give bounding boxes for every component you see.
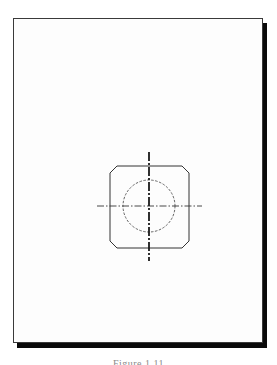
technical-drawing	[0, 0, 277, 365]
figure-caption: Figure 1.11	[0, 358, 277, 365]
